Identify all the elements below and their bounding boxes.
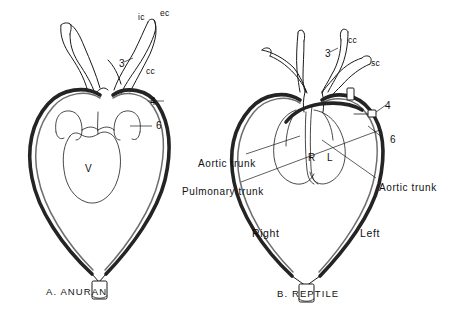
reptile-label-subclavian: sc bbox=[371, 58, 380, 68]
anuran-panel bbox=[30, 19, 169, 299]
reptile-label-right-side: Right bbox=[252, 227, 280, 239]
reptile-label-aortic-trunk-left: Aortic trunk bbox=[198, 158, 256, 169]
anuran-label-common-carotid: cc bbox=[146, 66, 155, 76]
heart-diagram-svg: .ol { fill:none; stroke:#1a1a1a; stroke-… bbox=[0, 0, 454, 313]
anuran-label-arch-three: 3 bbox=[119, 58, 125, 69]
anuran-label-arch-six: 6 bbox=[156, 120, 162, 131]
reptile-leader-aortic-left bbox=[246, 136, 300, 154]
anuran-label-internal-carotid: ic bbox=[138, 12, 145, 22]
anuran-label-ventricle: V bbox=[85, 163, 92, 174]
anuran-left-vessel-bundle bbox=[61, 23, 100, 94]
anatomical-figure: .ol { fill:none; stroke:#1a1a1a; stroke-… bbox=[0, 0, 454, 313]
reptile-label-left-side: Left bbox=[360, 227, 380, 239]
reptile-label-common-carotid: cc bbox=[348, 35, 357, 45]
reptile-label-aortic-trunk-right: Aortic trunk bbox=[379, 182, 437, 193]
anuran-label-external-carotid: ec bbox=[160, 8, 170, 18]
anuran-right-vessel-bundle bbox=[108, 19, 156, 94]
reptile-label-pulmonary-trunk: Pulmonary trunk bbox=[182, 186, 264, 197]
reptile-caption: B. REPTILE bbox=[277, 288, 339, 299]
reptile-label-arch-three: 3 bbox=[325, 48, 331, 59]
anuran-label-arch-four: 4 bbox=[150, 96, 156, 107]
reptile-leader-3 bbox=[330, 48, 338, 52]
anuran-caption: A. ANURAN bbox=[46, 286, 107, 297]
reptile-label-arch-six: 6 bbox=[390, 134, 396, 145]
reptile-label-right-chamber: R bbox=[308, 152, 316, 163]
reptile-label-left-chamber: L bbox=[327, 152, 333, 163]
reptile-label-arch-four: 4 bbox=[385, 100, 391, 111]
